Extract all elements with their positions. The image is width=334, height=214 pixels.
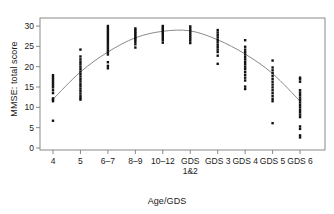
svg-text:GDS 5: GDS 5 xyxy=(260,156,286,166)
svg-text:10–12: 10–12 xyxy=(151,156,175,166)
y-axis-ticks xyxy=(36,26,40,148)
x-axis-title: Age/GDS xyxy=(0,196,334,206)
y-axis-tick-labels: 051015202530 xyxy=(25,21,35,153)
svg-text:25: 25 xyxy=(25,41,35,51)
plot-frame xyxy=(40,18,325,150)
svg-text:10: 10 xyxy=(25,102,35,112)
svg-text:20: 20 xyxy=(25,62,35,72)
svg-text:30: 30 xyxy=(25,21,35,31)
svg-text:4: 4 xyxy=(51,156,56,166)
svg-text:GDS: GDS xyxy=(181,156,200,166)
svg-text:8–9: 8–9 xyxy=(128,156,142,166)
x-axis-ticks xyxy=(53,150,300,154)
svg-text:0: 0 xyxy=(29,143,34,153)
fit-curve xyxy=(53,30,300,101)
x-axis-tick-labels: 456–78–910–12GDS1&2GDS 3GDS 4GDS 5GDS 6 xyxy=(51,156,313,176)
figure: 051015202530 456–78–910–12GDS1&2GDS 3GDS… xyxy=(0,0,334,214)
svg-text:GDS 4: GDS 4 xyxy=(232,156,258,166)
data-points xyxy=(52,25,301,139)
y-axis-title: MMSE: total score xyxy=(9,31,19,127)
svg-text:6–7: 6–7 xyxy=(101,156,115,166)
svg-text:1&2: 1&2 xyxy=(183,166,198,176)
svg-text:GDS 3: GDS 3 xyxy=(205,156,231,166)
svg-text:GDS 6: GDS 6 xyxy=(287,156,313,166)
svg-text:5: 5 xyxy=(78,156,83,166)
svg-text:15: 15 xyxy=(25,82,35,92)
svg-text:5: 5 xyxy=(29,123,34,133)
scatter-plot: 051015202530 456–78–910–12GDS1&2GDS 3GDS… xyxy=(0,0,334,214)
